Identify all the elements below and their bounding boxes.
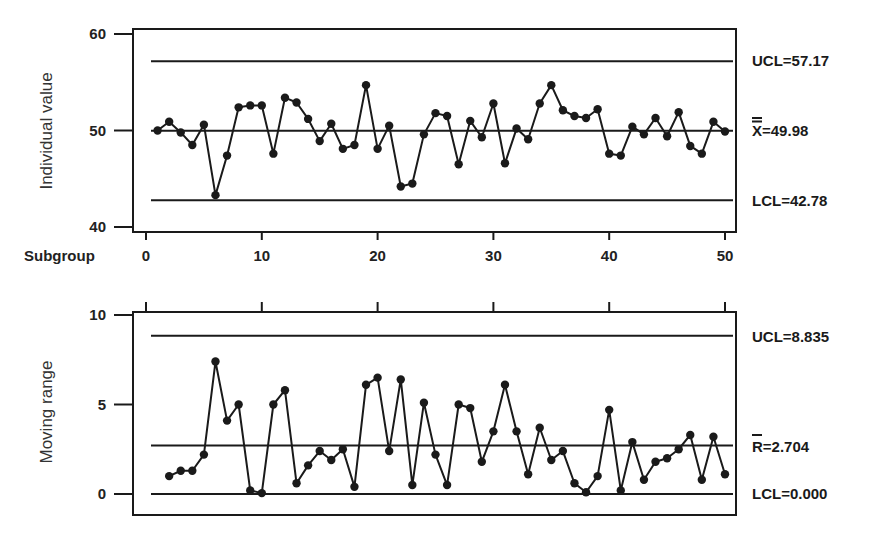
- data-point: [362, 381, 370, 389]
- data-point: [466, 117, 474, 125]
- data-point: [223, 416, 231, 424]
- data-point: [292, 98, 300, 106]
- data-point: [628, 122, 636, 130]
- x-tick-label: 0: [142, 247, 150, 264]
- control-chart: 405060 01020304050 Individual value Subg…: [0, 0, 881, 535]
- data-point: [316, 137, 324, 145]
- data-point: [177, 128, 185, 136]
- individuals-chart-panel: 405060 01020304050 Individual value Subg…: [24, 25, 829, 264]
- moving-range-limit-labels: UCL=8.835 R=2.704 LCL=0.000: [752, 328, 829, 502]
- data-point: [454, 400, 462, 408]
- data-point: [721, 470, 729, 478]
- data-point: [501, 159, 509, 167]
- x-tick-label: 10: [253, 247, 270, 264]
- data-point: [373, 145, 381, 153]
- data-point: [420, 399, 428, 407]
- data-point: [536, 99, 544, 107]
- individuals-y-axis-title: Individual value: [37, 72, 56, 189]
- x-tick-label: 20: [369, 247, 386, 264]
- data-point: [385, 447, 393, 455]
- data-point: [617, 486, 625, 494]
- data-point: [651, 114, 659, 122]
- moving-range-center-value: =2.704: [763, 438, 810, 455]
- rbar-symbol: R: [752, 438, 763, 455]
- individuals-center-label: X=49.98: [752, 122, 808, 139]
- data-point: [362, 81, 370, 89]
- data-point: [281, 93, 289, 101]
- y-tick-label: 10: [89, 306, 106, 323]
- series-line: [158, 85, 725, 195]
- moving-range-y-axis-title: Moving range: [37, 360, 56, 463]
- data-point: [431, 109, 439, 117]
- data-point: [350, 141, 358, 149]
- data-point: [188, 467, 196, 475]
- data-point: [211, 357, 219, 365]
- data-point: [512, 427, 520, 435]
- data-point: [350, 483, 358, 491]
- x-tick-label: 50: [717, 247, 734, 264]
- moving-range-plot-frame: [133, 312, 736, 515]
- y-tick-label: 40: [89, 218, 106, 235]
- data-point: [570, 112, 578, 120]
- data-point: [454, 160, 462, 168]
- data-point: [709, 433, 717, 441]
- moving-range-center-label: R=2.704: [752, 438, 810, 455]
- data-point: [593, 472, 601, 480]
- data-point: [478, 133, 486, 141]
- data-point: [420, 130, 428, 138]
- data-point: [709, 118, 717, 126]
- data-point: [200, 450, 208, 458]
- y-tick-label: 0: [98, 485, 106, 502]
- series-line: [169, 362, 725, 494]
- data-point: [339, 445, 347, 453]
- x-tick-label: 40: [601, 247, 618, 264]
- moving-range-y-axis: 0510: [89, 306, 133, 502]
- data-point: [640, 130, 648, 138]
- data-point: [698, 475, 706, 483]
- data-point: [385, 121, 393, 129]
- data-point: [246, 486, 254, 494]
- data-point: [269, 400, 277, 408]
- data-point: [501, 381, 509, 389]
- data-point: [547, 81, 555, 89]
- data-point: [408, 179, 416, 187]
- data-point: [686, 142, 694, 150]
- data-point: [628, 438, 636, 446]
- moving-range-ucl-label: UCL=8.835: [752, 328, 829, 345]
- data-point: [165, 472, 173, 480]
- individuals-series: [153, 81, 729, 199]
- y-tick-label: 60: [89, 25, 106, 42]
- data-point: [674, 108, 682, 116]
- data-point: [153, 126, 161, 134]
- data-point: [651, 458, 659, 466]
- data-point: [304, 115, 312, 123]
- data-point: [258, 489, 266, 497]
- individuals-y-axis: 405060: [89, 25, 133, 235]
- data-point: [593, 105, 601, 113]
- data-point: [536, 424, 544, 432]
- data-point: [443, 112, 451, 120]
- data-point: [431, 450, 439, 458]
- moving-range-x-ticks: [146, 302, 725, 312]
- data-point: [582, 488, 590, 496]
- data-point: [269, 149, 277, 157]
- individuals-ucl-label: UCL=57.17: [752, 52, 829, 69]
- y-tick-label: 50: [89, 122, 106, 139]
- subgroup-x-axis: 01020304050: [142, 232, 734, 264]
- data-point: [559, 447, 567, 455]
- data-point: [663, 132, 671, 140]
- data-point: [547, 456, 555, 464]
- data-point: [339, 145, 347, 153]
- moving-range-lcl-label: LCL=0.000: [752, 485, 827, 502]
- data-point: [570, 479, 578, 487]
- data-point: [605, 149, 613, 157]
- data-point: [721, 127, 729, 135]
- data-point: [327, 456, 335, 464]
- data-point: [559, 106, 567, 114]
- data-point: [373, 373, 381, 381]
- data-point: [188, 141, 196, 149]
- x-tick-label: 30: [485, 247, 502, 264]
- data-point: [408, 481, 416, 489]
- data-point: [281, 386, 289, 394]
- data-point: [524, 135, 532, 143]
